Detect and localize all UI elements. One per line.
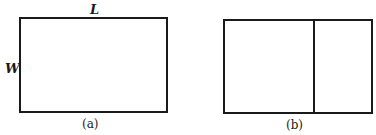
caption-b: (b) — [286, 119, 303, 132]
rectangle-b — [223, 19, 373, 114]
rectangle-a — [19, 17, 168, 113]
caption-a: (a) — [82, 118, 99, 131]
width-label: W — [5, 62, 20, 75]
length-label: L — [90, 3, 99, 16]
divider-line — [313, 19, 315, 114]
